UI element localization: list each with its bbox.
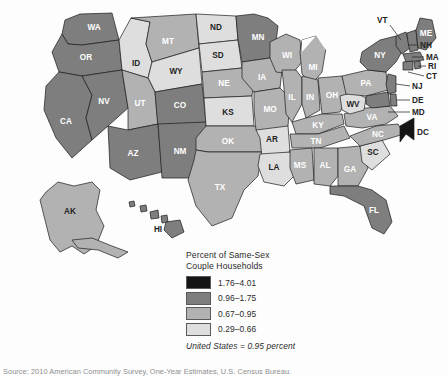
callout-label-NJ: NJ <box>412 82 422 91</box>
state-label-WY: WY <box>169 67 183 76</box>
state-label-WI: WI <box>282 51 292 60</box>
legend-swatch-3 <box>186 307 211 320</box>
legend-title-line2: Couple Households <box>186 261 263 271</box>
state-HI-5[interactable] <box>164 220 184 238</box>
dc-arrow-marker[interactable] <box>400 118 414 142</box>
state-label-LA: LA <box>269 163 280 172</box>
state-label-AR: AR <box>266 135 278 144</box>
state-label-FL: FL <box>369 206 379 215</box>
state-label-IL: IL <box>288 93 295 102</box>
state-label-AK: AK <box>64 207 76 216</box>
state-label-ID: ID <box>132 59 140 68</box>
state-label-GA: GA <box>344 165 356 174</box>
state-label-NV: NV <box>98 97 110 106</box>
callout-label-MD: MD <box>412 108 425 117</box>
state-DE[interactable] <box>390 94 397 106</box>
state-CT[interactable] <box>403 61 413 70</box>
callout-label-CT: CT <box>426 72 437 81</box>
state-HI-3[interactable] <box>150 210 159 219</box>
legend-range-3: 0.67–0.95 <box>218 309 256 319</box>
state-HI-2[interactable] <box>140 205 147 212</box>
state-AK-aleutians[interactable] <box>72 238 128 258</box>
state-label-UT: UT <box>135 99 146 108</box>
source-note: Source: 2010 American Community Survey, … <box>3 367 433 376</box>
us-choropleth-map-figure: WA OR CA NV ID MT WY UT CO AZ NM ND SD N… <box>0 0 448 376</box>
state-label-ME: ME <box>420 29 433 38</box>
state-RI[interactable] <box>414 61 421 69</box>
state-label-AZ: AZ <box>128 149 139 158</box>
callout-label-RI: RI <box>428 62 436 71</box>
state-label-OH: OH <box>326 91 338 100</box>
state-label-TN: TN <box>311 137 322 146</box>
state-label-CA: CA <box>60 117 72 126</box>
state-label-OR: OR <box>80 53 92 62</box>
legend-swatch-4 <box>186 323 211 336</box>
leader-line-CT <box>408 72 424 76</box>
state-label-OK: OK <box>222 137 234 146</box>
state-label-ND: ND <box>210 23 222 32</box>
state-NJ[interactable] <box>386 74 396 94</box>
state-label-AL: AL <box>320 161 331 170</box>
state-label-WA: WA <box>87 23 100 32</box>
state-label-SC: SC <box>367 148 378 157</box>
state-label-MI: MI <box>308 63 317 72</box>
state-label-VA: VA <box>367 113 378 122</box>
legend-range-4: 0.29–0.66 <box>218 324 256 334</box>
legend-swatch-2 <box>186 292 211 305</box>
state-label-MS: MS <box>294 161 307 170</box>
state-label-MO: MO <box>263 105 277 114</box>
map-legend: Percent of Same-Sex Couple Households 1.… <box>183 250 343 351</box>
callout-label-MA: MA <box>426 53 439 62</box>
state-label-TX: TX <box>215 183 226 192</box>
state-label-HI: HI <box>154 225 162 234</box>
state-CA[interactable] <box>44 72 92 158</box>
state-label-NC: NC <box>372 130 384 139</box>
state-label-IN: IN <box>306 93 314 102</box>
leader-line-NJ <box>396 84 410 86</box>
state-label-NY: NY <box>374 51 386 60</box>
state-label-CO: CO <box>174 101 187 110</box>
state-label-MT: MT <box>162 37 174 46</box>
callout-label-DC: DC <box>417 128 429 137</box>
legend-title-line1: Percent of Same-Sex <box>186 250 270 260</box>
state-label-SD: SD <box>212 51 223 60</box>
state-label-KY: KY <box>312 121 324 130</box>
legend-row: 0.29–0.66 <box>183 323 343 336</box>
state-label-PA: PA <box>361 79 372 88</box>
state-label-KS: KS <box>222 108 234 117</box>
legend-row: 0.96–1.75 <box>183 292 343 305</box>
legend-row: 1.76–4.01 <box>183 276 343 289</box>
state-label-WV: WV <box>346 100 360 109</box>
callout-label-DE: DE <box>412 96 424 105</box>
state-label-MN: MN <box>252 33 265 42</box>
legend-swatch-1 <box>186 276 211 289</box>
state-FL[interactable] <box>330 186 392 234</box>
legend-range-2: 0.96–1.75 <box>218 293 256 303</box>
state-HI-1[interactable] <box>129 201 135 207</box>
callout-label-VT: VT <box>377 16 387 25</box>
legend-range-1: 1.76–4.01 <box>218 278 256 288</box>
state-label-NE: NE <box>218 79 230 88</box>
callout-label-NH: NH <box>420 41 432 50</box>
legend-title: Percent of Same-Sex Couple Households <box>186 250 343 271</box>
state-label-IA: IA <box>258 73 266 82</box>
legend-national-note: United States = 0.95 percent <box>186 341 343 351</box>
legend-row: 0.67–0.95 <box>183 307 343 320</box>
state-label-NM: NM <box>174 147 187 156</box>
